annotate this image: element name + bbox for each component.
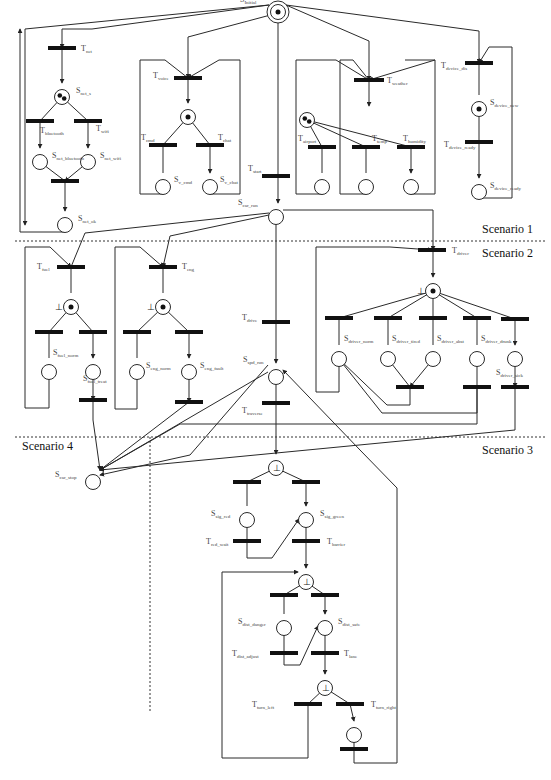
arc <box>71 213 269 267</box>
place <box>203 180 218 195</box>
transition-bar <box>57 265 85 269</box>
transition-bar <box>465 140 493 144</box>
scenario-label-s1: Scenario 1 <box>482 222 533 236</box>
transition-label: Tnet <box>81 44 93 54</box>
place <box>381 352 396 367</box>
bottom-symbol: ⊥ <box>322 683 330 693</box>
transition-bar <box>48 46 76 50</box>
transition-bar <box>397 145 425 149</box>
place-label: Scar_run <box>238 198 258 208</box>
transition-bar <box>354 78 384 82</box>
transition-bar <box>396 385 424 389</box>
labels: TnetTbluetoothTwifiTvoiceTcmdTchatTweath… <box>37 0 523 710</box>
place-label: Sdriver_norm <box>344 334 374 344</box>
transition-bar <box>196 143 224 147</box>
transition-bar <box>270 651 298 655</box>
token <box>62 96 67 101</box>
transition-label: Tbluetooth <box>40 126 64 136</box>
place <box>269 210 284 225</box>
arc <box>210 60 240 194</box>
transition-bar <box>292 480 320 484</box>
transition-bar <box>270 593 298 597</box>
transition-label: Twifi <box>96 124 110 134</box>
transition-bar <box>311 651 339 655</box>
arc <box>296 60 435 80</box>
arc <box>286 5 479 63</box>
petri-net-diagram: ⊥⊥⊥⊥⊥⊥ TnetTbluetoothTwifiTvoiceTcmdTcha… <box>0 0 551 780</box>
transition-bar <box>463 316 491 320</box>
place-label: Sdevice_ready <box>490 181 522 191</box>
transition-bar <box>262 401 290 405</box>
transition-bar <box>340 747 368 751</box>
transition-label: Tvoice <box>153 71 169 81</box>
bottom-symbol: ⊥ <box>273 463 281 473</box>
arcs <box>20 5 515 763</box>
transition-label: Ttemp <box>372 134 387 144</box>
place-label: Snet_wifi <box>100 151 122 161</box>
transition-bar <box>233 539 261 543</box>
transition-label: Teng <box>182 262 195 272</box>
transition-bar <box>501 317 529 321</box>
transition-bar <box>123 330 151 334</box>
arc <box>100 402 189 470</box>
place <box>508 352 523 367</box>
transition-bar <box>175 330 203 334</box>
place <box>472 185 487 200</box>
transition-bar <box>175 400 203 404</box>
place <box>277 621 292 636</box>
place-label: Ssig_green <box>320 509 344 519</box>
place <box>130 365 145 380</box>
transition-bar <box>35 330 63 334</box>
place-label: Sfuel_norm <box>53 348 78 358</box>
transition-bar <box>74 119 102 123</box>
transition-label: Tstart <box>248 164 262 174</box>
transition-bar <box>262 174 290 178</box>
token <box>161 305 166 310</box>
transition-label: Tdriver <box>452 246 469 256</box>
transition-label: Tweather <box>387 76 408 86</box>
bottom-symbol: ⊥ <box>303 577 311 587</box>
arc <box>247 519 299 558</box>
place-label: SInitial <box>240 0 257 5</box>
place-label: Sdriver_abst <box>437 334 465 344</box>
place <box>240 513 255 528</box>
transition-bar <box>352 145 380 149</box>
place <box>58 218 73 233</box>
transition-bar <box>308 145 336 149</box>
transition-label: Tturn_right <box>371 700 396 710</box>
transition-label: Tdrive <box>242 313 258 323</box>
place <box>470 352 485 367</box>
place <box>156 180 171 195</box>
bottom-symbol: ⊥ <box>55 302 63 312</box>
transition-bar <box>465 61 493 65</box>
place-label: Snet_s <box>76 86 91 96</box>
transition-label: Tdevice_dis <box>441 61 467 71</box>
arc <box>100 387 477 470</box>
transition-bar <box>233 480 261 484</box>
place <box>55 90 70 105</box>
place <box>42 365 57 380</box>
place-label: Sdevice_new <box>490 98 519 108</box>
place <box>318 621 333 636</box>
transition-bar <box>149 143 177 147</box>
place <box>269 370 284 385</box>
transition-bar <box>311 593 339 597</box>
transition-bar <box>501 385 529 389</box>
token <box>186 115 191 120</box>
transition-label: Tbarrier <box>327 537 346 547</box>
place <box>426 352 441 367</box>
place-label: Sdist_safe <box>338 617 361 627</box>
place <box>404 180 419 195</box>
transition-label: Tdist_adjust <box>232 649 259 659</box>
place <box>33 155 48 170</box>
arc <box>283 210 433 250</box>
scenario-label-s3: Scenario 3 <box>482 443 533 457</box>
place <box>315 180 330 195</box>
arc <box>62 5 269 48</box>
transition-bar <box>325 316 353 320</box>
arc <box>286 5 369 80</box>
arc <box>100 387 515 470</box>
place-label: Sdist_danger <box>238 617 266 627</box>
place-label: Sspd_run <box>243 355 264 365</box>
transition-bar <box>79 330 107 334</box>
